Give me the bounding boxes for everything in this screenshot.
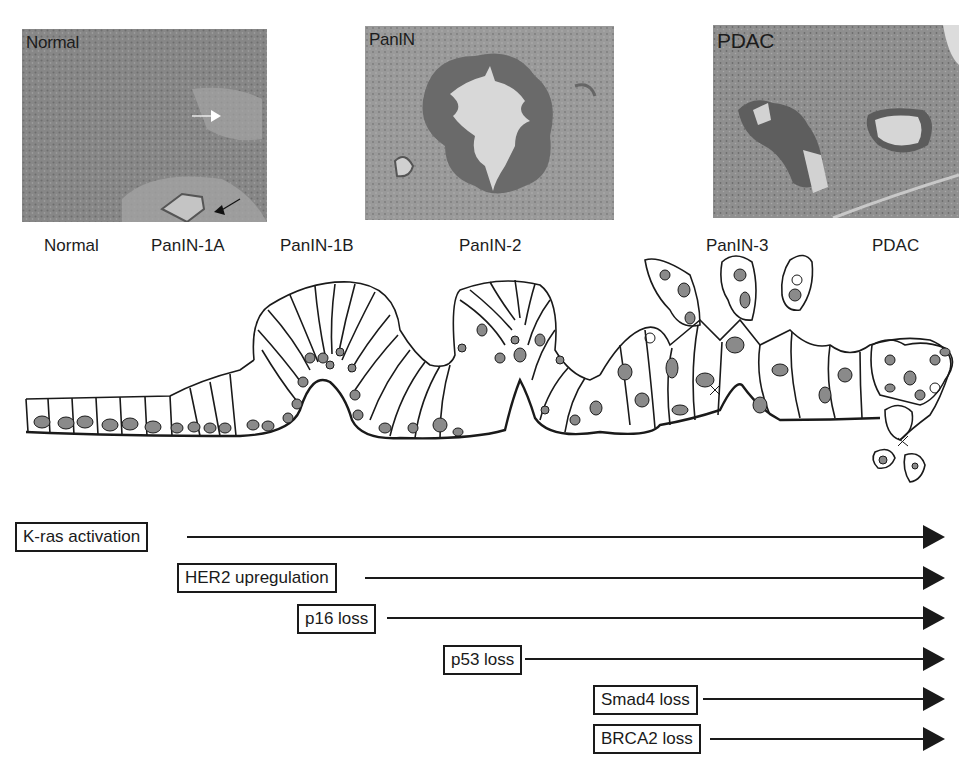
marker-box-her2: HER2 upregulation [177,563,337,593]
arrowhead-icon [923,525,945,549]
marker-box-brca2: BRCA2 loss [593,724,701,754]
marker-arrow-line [525,658,927,660]
arrowhead-icon [923,687,945,711]
micrograph-normal: Normal [22,29,267,222]
marker-box-kras: K-ras activation [15,522,148,552]
normal-tissue-image [22,29,267,222]
micrograph-label: PanIN [369,30,415,50]
panin-tissue-image [365,26,614,220]
marker-arrow-line [703,698,927,700]
marker-arrow-line [387,617,927,619]
arrowhead-icon [923,727,945,751]
arrowhead-icon [923,647,945,671]
marker-arrow-line [365,577,927,579]
marker-box-p16: p16 loss [297,604,376,634]
marker-box-smad4: Smad4 loss [593,685,698,715]
arrowhead-icon [923,606,945,630]
micrograph-pdac: PDAC [713,25,959,218]
micrograph-label: PDAC [717,29,774,53]
marker-box-p53: p53 loss [443,645,522,675]
micrograph-panin: PanIN [365,26,614,220]
micrograph-label: Normal [26,33,79,53]
marker-arrow-line [187,536,927,538]
marker-arrow-line [710,738,927,740]
epithelium-progression-diagram [0,250,974,490]
arrowhead-icon [923,566,945,590]
pdac-tissue-image [713,25,959,218]
